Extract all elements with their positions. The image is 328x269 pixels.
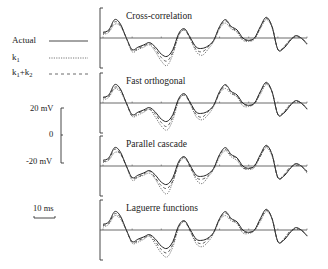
- panel-title: Cross-correlation: [126, 11, 192, 21]
- legend: Actual k1 k1+k2: [12, 35, 88, 78]
- panels: Cross-correlationFast orthogonalParallel…: [100, 8, 307, 260]
- time-scale-bar: 10 ms: [33, 203, 55, 218]
- trace-k1-plus-k2: [103, 18, 307, 61]
- scale-label-neg20mv: -20 mV: [26, 156, 53, 166]
- panel-3: Parallel cascade: [100, 136, 307, 196]
- scale-label-20mv: 20 mV: [30, 103, 54, 113]
- legend-label-actual: Actual: [12, 35, 36, 45]
- trace-k1-plus-k2: [103, 83, 307, 126]
- trace-Actual: [103, 82, 307, 121]
- trace-k1: [103, 85, 307, 131]
- panel-2: Fast orthogonal: [100, 73, 307, 133]
- panel-title: Laguerre functions: [126, 203, 198, 213]
- panel-1: Cross-correlation: [100, 8, 307, 68]
- scale-label-10ms: 10 ms: [33, 203, 54, 213]
- panel-4: Laguerre functions: [100, 200, 307, 260]
- scale-label-0: 0: [49, 129, 53, 139]
- trace-k1: [103, 212, 307, 258]
- voltage-bar-line: [61, 108, 64, 163]
- trace-k1: [103, 20, 307, 66]
- voltage-scale-bar: 20 mV 0 -20 mV: [26, 103, 64, 166]
- time-bar-line: [34, 216, 55, 218]
- panel-title: Fast orthogonal: [126, 76, 186, 86]
- trace-Actual: [103, 17, 307, 56]
- trace-k1-plus-k2: [103, 210, 307, 253]
- trace-Actual: [103, 209, 307, 248]
- trace-Actual: [103, 145, 307, 184]
- figure-canvas: Actual k1 k1+k2 20 mV 0 -20 mV 10 ms Cro…: [0, 0, 328, 269]
- trace-k1-plus-k2: [103, 146, 307, 188]
- legend-label-k1k2: k1+k2: [12, 67, 33, 78]
- legend-label-k1: k1: [12, 52, 20, 63]
- panel-title: Parallel cascade: [126, 139, 187, 149]
